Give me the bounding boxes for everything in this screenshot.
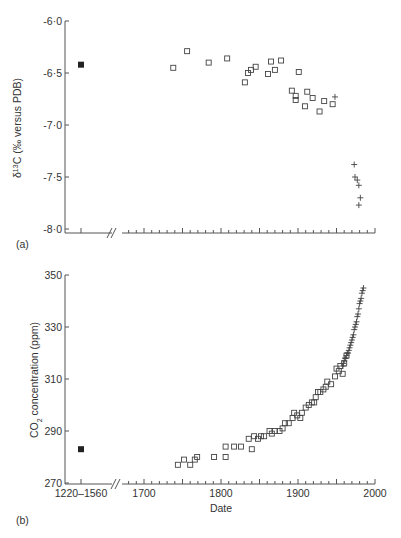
open-square-marker: [330, 102, 335, 107]
plus-marker: [347, 342, 353, 348]
open-square-marker: [223, 455, 228, 460]
plus-marker: [356, 182, 362, 188]
open-square-marker: [185, 49, 190, 54]
y-tick-label: 330: [44, 321, 62, 333]
open-square-marker: [223, 444, 228, 449]
x-tick-label: 1220–1560: [55, 487, 108, 499]
open-square-marker: [279, 58, 284, 63]
open-square-marker: [245, 71, 250, 76]
panel-b-y-axis-title: CO2 concentration (ppm): [28, 322, 43, 438]
filled-square-marker: [78, 62, 84, 68]
panel-a-data-points: [78, 49, 363, 208]
plus-marker: [346, 347, 352, 353]
open-square-marker: [171, 65, 176, 70]
plus-marker: [348, 340, 354, 346]
plus-marker: [356, 306, 362, 312]
y-tick-label: 310: [44, 373, 62, 385]
open-square-marker: [269, 59, 274, 64]
open-square-marker: [265, 72, 270, 77]
open-square-marker: [305, 89, 310, 94]
open-square-marker: [225, 56, 230, 61]
panel-b-chart: 350330310290270 1220–1560170018001900200…: [16, 269, 387, 527]
y-tick-label: -8·0: [43, 223, 62, 235]
plus-marker: [356, 202, 362, 208]
panel-b-label: (b): [16, 514, 29, 526]
plus-marker: [350, 334, 356, 340]
open-square-marker: [332, 374, 337, 379]
plus-marker: [355, 311, 361, 317]
x-tick-label: 1800: [209, 487, 233, 499]
x-tick-label: 1700: [132, 487, 156, 499]
plus-marker: [359, 290, 365, 296]
plus-marker: [350, 332, 356, 338]
plus-marker: [354, 319, 360, 325]
plus-marker: [357, 195, 363, 201]
plus-marker: [360, 288, 366, 294]
open-square-marker: [310, 95, 315, 100]
figure-canvas: -6·0-6·5-7·0-7·5-8·0 δ13C (‰ versus PDB)…: [0, 0, 401, 538]
open-square-marker: [212, 455, 217, 460]
open-square-marker: [232, 444, 237, 449]
plus-marker: [354, 314, 360, 320]
open-square-marker: [262, 434, 267, 439]
y-tick-label: -7·0: [43, 119, 62, 131]
plus-marker: [357, 298, 363, 304]
open-square-marker: [242, 80, 247, 85]
open-square-marker: [302, 104, 307, 109]
panel-b-x-axis-title: Date: [210, 502, 232, 514]
plus-marker: [353, 321, 359, 327]
open-square-marker: [249, 447, 254, 452]
plus-marker: [351, 327, 357, 333]
open-square-marker: [206, 60, 211, 65]
plus-marker: [332, 94, 338, 100]
plus-marker: [351, 162, 357, 168]
panel-b-x-ticks: 1220–15601700180019002000: [55, 479, 387, 499]
plus-marker: [352, 324, 358, 330]
open-square-marker: [182, 457, 187, 462]
plus-marker: [349, 337, 355, 343]
panel-b-data-points: [78, 285, 366, 467]
panel-a-chart: -6·0-6·5-7·0-7·5-8·0 δ13C (‰ versus PDB)…: [11, 15, 375, 251]
axis-break-icon: [111, 479, 120, 489]
y-tick-label: -6·0: [43, 15, 62, 27]
panel-a-x-ticks: [81, 228, 375, 233]
open-square-marker: [289, 88, 294, 93]
plus-marker: [345, 350, 351, 356]
y-tick-label: 290: [44, 425, 62, 437]
open-square-marker: [246, 436, 251, 441]
plus-marker: [357, 301, 363, 307]
open-square-marker: [175, 462, 180, 467]
y-tick-label: -6·5: [43, 67, 62, 79]
panel-a-y-axis-title: δ13C (‰ versus PDB): [11, 78, 23, 178]
filled-square-marker: [78, 446, 84, 452]
open-square-marker: [317, 109, 322, 114]
x-tick-label: 2000: [363, 487, 387, 499]
open-square-marker: [188, 462, 193, 467]
y-tick-label: -7·5: [43, 171, 62, 183]
panel-a-label: (a): [16, 238, 29, 250]
y-tick-label: 350: [44, 269, 62, 281]
plus-marker: [347, 345, 353, 351]
open-square-marker: [296, 69, 301, 74]
open-square-marker: [239, 444, 244, 449]
plus-marker: [360, 285, 366, 291]
open-square-marker: [272, 67, 277, 72]
x-tick-label: 1900: [286, 487, 310, 499]
open-square-marker: [313, 395, 318, 400]
open-square-marker: [322, 99, 327, 104]
plus-marker: [358, 295, 364, 301]
